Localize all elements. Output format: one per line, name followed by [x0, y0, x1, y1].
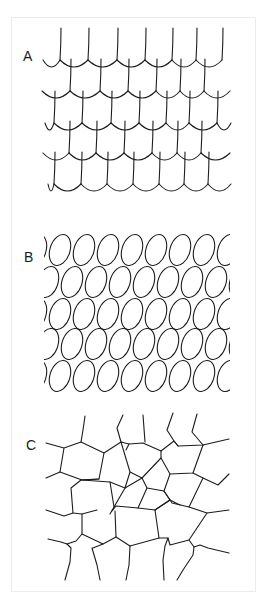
- panel-c-polygons-illustration: [0, 0, 271, 604]
